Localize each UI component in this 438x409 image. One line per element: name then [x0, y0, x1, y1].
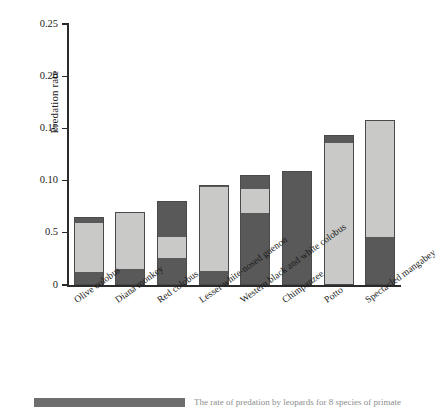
caption-strip: The rate of predation by leopards for 8 …	[34, 397, 415, 409]
x-tick-label: Spectacled mangabey	[363, 246, 438, 304]
x-tick-label: Potto	[321, 284, 344, 305]
caption-text: The rate of predation by leopards for 8 …	[194, 397, 401, 407]
caption-swatch	[34, 398, 185, 407]
